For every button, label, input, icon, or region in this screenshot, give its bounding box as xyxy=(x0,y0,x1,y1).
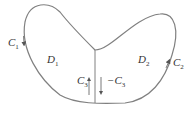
region-diagram: C1 D1 C3 −C3 D2 C2 xyxy=(0,0,195,117)
label-d2: D2 xyxy=(137,53,150,68)
label-neg-c3: −C3 xyxy=(107,74,126,89)
label-d1: D1 xyxy=(46,53,59,68)
label-c3: C3 xyxy=(77,74,88,89)
c1-arrow-icon xyxy=(24,36,25,44)
label-c1: C1 xyxy=(8,36,19,51)
label-c2: C2 xyxy=(173,56,184,71)
